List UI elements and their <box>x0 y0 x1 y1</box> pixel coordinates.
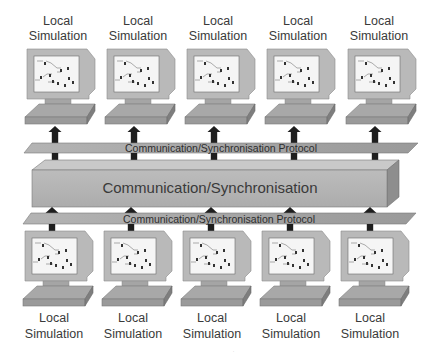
node-label-line1: Local <box>118 311 148 325</box>
base-front-face <box>260 299 322 306</box>
top-link-arrow-icon <box>288 126 301 143</box>
top-node-label: LocalSimulation <box>269 14 327 43</box>
stray-dot: . <box>233 348 234 353</box>
bottom-node-label: LocalSimulation <box>104 311 162 341</box>
top-node-label: LocalSimulation <box>29 14 87 43</box>
bottom-computer-monitor-icon <box>23 231 93 306</box>
monitor-stand <box>280 281 306 286</box>
monitor-screen <box>111 238 156 274</box>
core-outbound-arrow-icon <box>364 207 377 213</box>
architecture-diagram: LocalSimulationLocalSimulationLocalSimul… <box>0 0 440 356</box>
base-front-face <box>105 117 167 124</box>
monitor-stand <box>205 99 231 104</box>
upper-protocol-label: Communication/Synchronisation Protocol <box>125 142 317 154</box>
base-top-face <box>185 104 255 117</box>
monitor-stand <box>122 281 148 286</box>
base-top-face <box>102 286 172 299</box>
base-top-face <box>23 286 93 299</box>
node-label-line1: Local <box>364 14 394 28</box>
node-label-line2: Simulation <box>109 29 167 43</box>
lower-protocol-label: Communication/Synchronisation Protocol <box>123 213 315 225</box>
base-top-face <box>181 286 251 299</box>
base-top-face <box>260 286 330 299</box>
top-node-label: LocalSimulation <box>189 14 247 43</box>
monitor-stand <box>45 99 71 104</box>
node-label-line1: Local <box>203 14 233 28</box>
bottom-node-label: LocalSimulation <box>183 311 241 341</box>
bottom-computer-monitor-icon <box>102 231 172 306</box>
upper-protocol-layer: Communication/Synchronisation Protocol <box>24 142 418 154</box>
top-link-arrow-icon <box>128 126 141 143</box>
base-top-face <box>265 104 335 117</box>
monitor-screen <box>274 56 319 92</box>
monitor-stand <box>43 281 69 286</box>
monitor-screen <box>348 238 393 274</box>
monitor-stand <box>125 99 151 104</box>
base-front-face <box>185 117 247 124</box>
monitor-stand <box>285 99 311 104</box>
node-label-line1: Local <box>197 311 227 325</box>
core-label: Communication/Synchronisation <box>102 179 317 196</box>
bottom-computer-monitor-icon <box>260 231 330 306</box>
monitor-screen <box>34 56 79 92</box>
top-links <box>49 126 382 143</box>
base-front-face <box>23 299 85 306</box>
top-computer-monitor-icon <box>25 49 95 124</box>
base-top-face <box>339 286 409 299</box>
monitor-stand <box>366 99 392 104</box>
node-label-line1: Local <box>39 311 69 325</box>
monitor-screen <box>32 238 77 274</box>
lower-protocol-layer: Communication/Synchronisation Protocol <box>23 213 416 225</box>
top-computer-monitor-icon <box>185 49 255 124</box>
node-label-line1: Local <box>43 14 73 28</box>
node-label-line2: Simulation <box>350 29 408 43</box>
base-top-face <box>105 104 175 117</box>
node-label-line1: Local <box>283 14 313 28</box>
bottom-node-label: LocalSimulation <box>25 311 83 341</box>
monitor-screen <box>269 238 314 274</box>
node-label-line2: Simulation <box>104 327 162 341</box>
core-communication-box: Communication/Synchronisation <box>32 160 399 207</box>
node-label-line2: Simulation <box>29 29 87 43</box>
core-outbound-arrow-icon <box>46 207 59 213</box>
top-link-arrow-icon <box>369 126 382 143</box>
bottom-computer-monitor-icon <box>181 231 251 306</box>
bottom-computer-monitor-icon <box>339 231 409 306</box>
top-computer-monitor-icon <box>346 49 416 124</box>
bottom-node-label: LocalSimulation <box>262 311 320 341</box>
node-label-line2: Simulation <box>25 327 83 341</box>
base-front-face <box>339 299 401 306</box>
top-node-label: LocalSimulation <box>109 14 167 43</box>
monitor-screen <box>355 56 400 92</box>
node-label-line2: Simulation <box>269 29 327 43</box>
top-computer-monitor-icon <box>105 49 175 124</box>
bottom-node-label: LocalSimulation <box>341 311 399 341</box>
monitor-screen <box>194 56 239 92</box>
monitor-screen <box>190 238 235 274</box>
base-front-face <box>265 117 327 124</box>
base-front-face <box>25 117 87 124</box>
top-node-labels: LocalSimulationLocalSimulationLocalSimul… <box>29 14 408 43</box>
base-front-face <box>181 299 243 306</box>
base-front-face <box>346 117 408 124</box>
node-label-line1: Local <box>355 311 385 325</box>
top-link-arrow-icon <box>49 126 62 143</box>
monitor-screen <box>114 56 159 92</box>
top-node-monitors <box>25 49 416 124</box>
bottom-node-labels: LocalSimulationLocalSimulationLocalSimul… <box>25 311 399 341</box>
top-node-label: LocalSimulation <box>350 14 408 43</box>
monitor-stand <box>359 281 385 286</box>
base-top-face <box>25 104 95 117</box>
node-label-line2: Simulation <box>183 327 241 341</box>
top-link-arrow-icon <box>208 126 221 143</box>
node-label-line2: Simulation <box>189 29 247 43</box>
node-label-line1: Local <box>123 14 153 28</box>
monitor-stand <box>201 281 227 286</box>
bottom-node-monitors <box>23 231 409 306</box>
top-computer-monitor-icon <box>265 49 335 124</box>
base-front-face <box>102 299 164 306</box>
node-label-line1: Local <box>276 311 306 325</box>
node-label-line2: Simulation <box>341 327 399 341</box>
core-box-top-face <box>32 160 399 170</box>
node-label-line2: Simulation <box>262 327 320 341</box>
